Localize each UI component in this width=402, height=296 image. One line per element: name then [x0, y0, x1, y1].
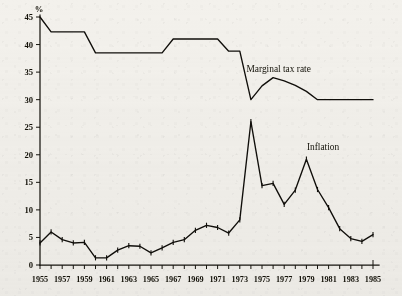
- y-tick-labels: 051015202530354045: [24, 12, 33, 270]
- x-tick-label: 1983: [343, 275, 359, 284]
- series-annotations: Marginal tax rateInflation: [246, 64, 339, 152]
- x-tick-label: 1973: [232, 275, 248, 284]
- x-tick-label: 1963: [121, 275, 137, 284]
- series-line-marginal-tax-rate: [40, 17, 373, 100]
- x-tick-label: 1985: [365, 275, 381, 284]
- y-tick-label: 35: [24, 67, 33, 77]
- x-tick-label: 1955: [32, 275, 48, 284]
- x-tick-label: 1957: [54, 275, 70, 284]
- x-tick-label: 1975: [254, 275, 270, 284]
- x-tick-labels: 1955195719591961196319651967196919711973…: [32, 275, 381, 284]
- y-tick-label: 0: [29, 260, 33, 270]
- line-chart: 051015202530354045 195519571959196119631…: [0, 0, 402, 296]
- y-tick-label: 40: [24, 40, 33, 50]
- y-tick-label: 10: [24, 205, 33, 215]
- series-annotation: Inflation: [307, 142, 340, 152]
- x-tick-label: 1981: [320, 275, 336, 284]
- x-tick-label: 1967: [165, 275, 181, 284]
- x-tick-label: 1961: [98, 275, 114, 284]
- series-group: [40, 17, 373, 260]
- y-axis-unit-label: %: [35, 4, 44, 14]
- x-tick-label: 1969: [187, 275, 203, 284]
- y-tick-label: 5: [29, 232, 33, 242]
- x-tick-label: 1959: [76, 275, 92, 284]
- y-tick-label: 20: [24, 150, 33, 160]
- y-tick-label: 45: [24, 12, 33, 22]
- y-tick-label: 15: [24, 177, 33, 187]
- y-tick-label: 30: [24, 95, 33, 105]
- x-tick-label: 1971: [209, 275, 225, 284]
- y-tick-label: 25: [24, 122, 33, 132]
- chart-container: 051015202530354045 195519571959196119631…: [0, 0, 402, 296]
- x-tick-label: 1979: [298, 275, 314, 284]
- x-tick-label: 1965: [143, 275, 159, 284]
- series-annotation: Marginal tax rate: [246, 64, 310, 74]
- x-tick-label: 1977: [276, 275, 292, 284]
